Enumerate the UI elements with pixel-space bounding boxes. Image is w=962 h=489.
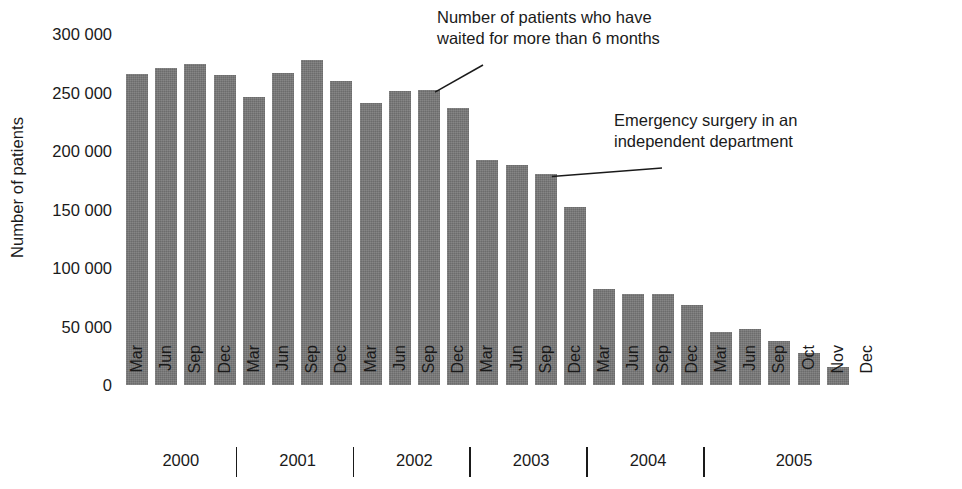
bar xyxy=(126,74,148,385)
x-axis-month-label: Sep xyxy=(184,385,206,447)
plot-area xyxy=(123,34,943,385)
x-axis-month-label-text: Sep xyxy=(768,345,790,407)
x-axis-month-label-text: Dec xyxy=(214,345,236,407)
bar xyxy=(214,75,236,385)
x-axis-month-label-text: Sep xyxy=(184,345,206,407)
x-axis-month-label-text: Dec xyxy=(681,345,703,407)
x-axis-month-label: Dec xyxy=(564,385,586,447)
x-axis-month-label-text: Jun xyxy=(272,345,294,407)
x-axis-month-label-text: Dec xyxy=(564,345,586,407)
x-axis-month-label-text: Mar xyxy=(476,345,498,407)
x-axis-year-label: 2003 xyxy=(476,451,586,470)
x-axis-month-label: Dec xyxy=(214,385,236,447)
annotation-emergency-surgery: Emergency surgery in an independent depa… xyxy=(614,110,797,152)
year-separator-tick xyxy=(236,447,238,477)
x-axis-month-label: Jun xyxy=(272,385,294,447)
x-axis-month-label: Mar xyxy=(476,385,498,447)
x-axis-month-label-text: Jun xyxy=(739,345,761,407)
x-axis-month-label: Dec xyxy=(681,385,703,447)
x-axis-year-label: 2001 xyxy=(243,451,353,470)
y-axis-tick-labels: 300 000250 000200 000150 000100 00050 00… xyxy=(0,0,112,489)
bar xyxy=(243,97,265,385)
x-axis-month-label: Dec xyxy=(330,385,352,447)
bar xyxy=(155,68,177,385)
x-axis-year-label: 2005 xyxy=(710,451,878,470)
x-axis-month-label: Dec xyxy=(856,385,878,447)
bar xyxy=(418,90,440,385)
bar xyxy=(272,73,294,385)
bar xyxy=(447,108,469,385)
y-axis-tick-label: 100 000 xyxy=(0,260,112,277)
x-axis-month-label: Sep xyxy=(301,385,323,447)
y-axis-tick-label: 200 000 xyxy=(0,143,112,160)
x-axis-month-label: Jun xyxy=(155,385,177,447)
x-axis-month-label-text: Jun xyxy=(506,345,528,407)
x-axis-month-label-text: Sep xyxy=(652,345,674,407)
year-separator-tick xyxy=(703,447,705,477)
x-axis-month-label-text: Mar xyxy=(243,345,265,407)
x-axis-year-label: 2002 xyxy=(360,451,470,470)
x-axis-month-label: Mar xyxy=(126,385,148,447)
year-separator-tick xyxy=(586,447,588,477)
x-axis-month-label-text: Jun xyxy=(389,345,411,407)
x-axis: MarJunSepDecMarJunSepDecMarJunSepDecMarJ… xyxy=(123,385,943,489)
year-separator-tick xyxy=(353,447,355,477)
bar xyxy=(184,64,206,385)
annotation-waiting-patients: Number of patients who have waited for m… xyxy=(437,7,660,49)
x-axis-month-label: Nov xyxy=(827,385,849,447)
x-axis-month-label: Jun xyxy=(389,385,411,447)
x-axis-month-label: Dec xyxy=(447,385,469,447)
y-axis-tick-label: 50 000 xyxy=(0,318,112,335)
x-axis-month-label-text: Mar xyxy=(593,345,615,407)
x-axis-month-label-text: Mar xyxy=(710,345,732,407)
bar xyxy=(330,81,352,385)
year-separator-tick xyxy=(469,447,471,477)
x-axis-month-label: Oct xyxy=(798,385,820,447)
x-axis-month-label: Mar xyxy=(593,385,615,447)
x-axis-month-label-text: Dec xyxy=(447,345,469,407)
x-axis-month-label-text: Sep xyxy=(418,345,440,407)
x-axis-month-label-text: Dec xyxy=(330,345,352,407)
x-axis-month-label-text: Jun xyxy=(155,345,177,407)
y-axis-tick-label: 250 000 xyxy=(0,84,112,101)
y-axis-tick-label: 150 000 xyxy=(0,201,112,218)
x-axis-month-label-text: Dec xyxy=(856,345,878,407)
bar xyxy=(389,91,411,385)
x-axis-month-label: Sep xyxy=(418,385,440,447)
y-axis-tick-label: 300 000 xyxy=(0,26,112,43)
bar xyxy=(360,103,382,385)
x-axis-month-label-text: Mar xyxy=(126,345,148,407)
x-axis-year-label: 2004 xyxy=(593,451,703,470)
x-axis-month-label-text: Oct xyxy=(798,345,820,407)
x-axis-month-label-text: Jun xyxy=(622,345,644,407)
x-axis-month-label: Mar xyxy=(710,385,732,447)
x-axis-month-label: Sep xyxy=(768,385,790,447)
x-axis-month-label: Sep xyxy=(652,385,674,447)
x-axis-month-label: Jun xyxy=(622,385,644,447)
x-axis-month-label-text: Sep xyxy=(301,345,323,407)
x-axis-month-label: Jun xyxy=(739,385,761,447)
x-axis-month-label: Sep xyxy=(535,385,557,447)
bar xyxy=(301,60,323,385)
x-axis-month-label: Mar xyxy=(360,385,382,447)
x-axis-month-label-text: Sep xyxy=(535,345,557,407)
bar-chart: Number of patients 300 000250 000200 000… xyxy=(0,0,962,489)
y-axis-tick-label: 0 xyxy=(0,377,112,394)
x-axis-month-label: Mar xyxy=(243,385,265,447)
x-axis-year-label: 2000 xyxy=(126,451,236,470)
x-axis-month-label: Jun xyxy=(506,385,528,447)
x-axis-month-label-text: Nov xyxy=(827,345,849,407)
x-axis-month-label-text: Mar xyxy=(360,345,382,407)
